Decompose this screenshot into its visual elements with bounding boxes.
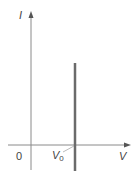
v0-leader-line [63, 146, 74, 152]
y-axis-arrow-icon [29, 11, 34, 18]
origin-label: 0 [16, 151, 22, 162]
threshold-label-subscript: 0 [59, 154, 63, 163]
y-axis-label: I [19, 10, 22, 21]
x-axis-arrow-icon [124, 143, 131, 148]
x-axis-label: V [119, 151, 126, 162]
threshold-label: V0 [52, 150, 64, 163]
